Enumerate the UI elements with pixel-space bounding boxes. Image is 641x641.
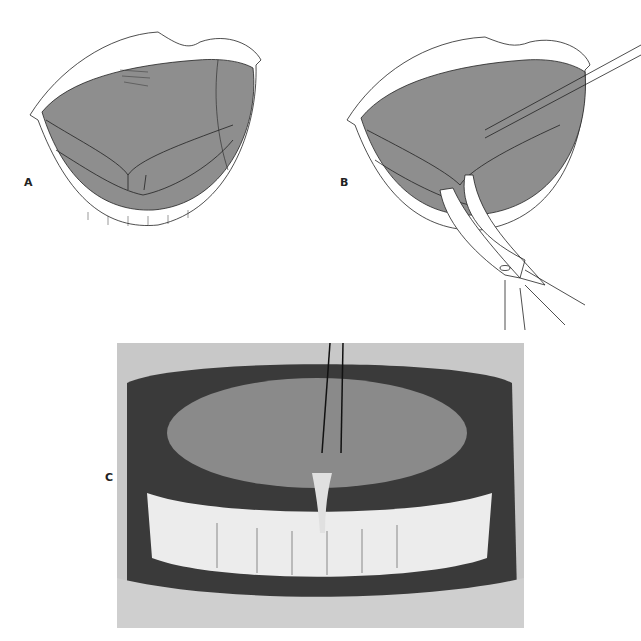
panel-label-b: B bbox=[340, 176, 348, 189]
panel-label-a: A bbox=[24, 176, 33, 189]
panel-c-photograph bbox=[117, 343, 524, 628]
tongue-illustration-a bbox=[28, 20, 268, 230]
panel-label-c: C bbox=[105, 471, 113, 484]
clinical-photo-render bbox=[117, 343, 524, 628]
panel-b bbox=[345, 20, 641, 330]
panel-a bbox=[28, 20, 268, 230]
tongue-illustration-b bbox=[345, 20, 641, 330]
